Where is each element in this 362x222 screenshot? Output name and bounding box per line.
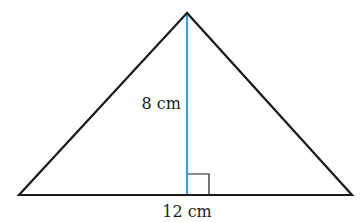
triangle-outline: [19, 13, 352, 195]
height-label: 8 cm: [142, 94, 181, 113]
right-angle-marker: [188, 174, 209, 194]
triangle-diagram: 8 cm 12 cm: [0, 0, 362, 222]
base-label: 12 cm: [162, 202, 212, 221]
